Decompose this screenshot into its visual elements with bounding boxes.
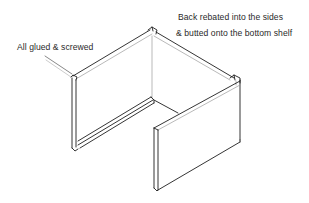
cabinet-diagram: All glued & screwed Back rebated into th… (0, 0, 309, 203)
annotation-back-rebated: Back rebated into the sides (178, 12, 283, 22)
annotation-butted-bottom-shelf: & butted onto the bottom shelf (176, 28, 292, 38)
annotation-glued-screwed: All glued & screwed (17, 42, 93, 52)
leader-line-glued (45, 56, 72, 77)
bottom-shelf-rebate (78, 97, 178, 148)
right-side-panel (236, 80, 240, 140)
front-right-panel (154, 81, 240, 191)
